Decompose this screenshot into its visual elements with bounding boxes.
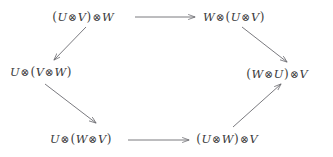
diagram-canvas: (U⊗V)⊗W W⊗(U⊗V) U⊗(V⊗W) (W⊗U)⊗V U⊗(W⊗V) … — [0, 0, 333, 157]
node-middle-right: (W⊗U)⊗V — [246, 68, 308, 81]
node-bottom-right: (U⊗W)⊗V — [196, 133, 258, 146]
arrow-top-left-down — [54, 27, 86, 60]
node-top-left: (U⊗V)⊗W — [52, 11, 114, 24]
node-top-right: W⊗(U⊗V) — [203, 11, 265, 24]
arrow-bottom-right-up — [233, 84, 281, 127]
node-bottom-left: U⊗(W⊗V) — [50, 133, 112, 146]
node-middle-left: U⊗(V⊗W) — [10, 66, 72, 79]
arrow-top-right-down — [242, 27, 287, 62]
arrow-middle-left-down — [45, 84, 96, 123]
